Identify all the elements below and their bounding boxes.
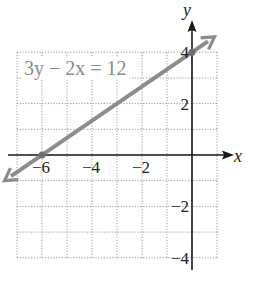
y-tick-label: 2 — [181, 95, 190, 114]
x-tick-label: −4 — [82, 158, 101, 177]
y-axis-label: y — [181, 0, 191, 20]
y-tick-label: −2 — [171, 197, 189, 216]
equation-label: 3y − 2x = 12 — [24, 57, 127, 80]
x-axis-label: x — [233, 146, 242, 166]
x-tick-label: −2 — [132, 158, 150, 177]
intercept-point — [189, 49, 196, 56]
y-tick-label: −4 — [171, 249, 190, 268]
coordinate-graph: 3y − 2x = 12 x y −6−4−2 42−2−4 — [0, 0, 269, 281]
x-tick-label: −6 — [32, 158, 50, 177]
y-tick-label: 4 — [181, 43, 190, 62]
x-tick-labels: −6−4−2 — [32, 158, 150, 177]
